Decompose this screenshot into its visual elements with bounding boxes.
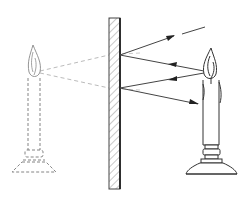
arrow-right-icon: [189, 99, 199, 104]
virtual-rays: [40, 53, 140, 90]
rays: [120, 27, 205, 104]
incident-ray-upper: [120, 55, 204, 71]
incident-ray-lower: [120, 73, 204, 88]
plane-mirror-diagram: [0, 0, 251, 197]
virtual-candle-image: [12, 45, 56, 172]
arrow-left-icon: [168, 76, 177, 81]
virtual-ray-lower: [40, 73, 109, 88]
reflected-ray-upper-continuation: [182, 27, 205, 34]
real-candle: [186, 48, 237, 174]
virtual-ray-upper: [40, 55, 109, 71]
reflected-ray-lower: [120, 88, 198, 104]
virtual-flame-icon: [28, 45, 40, 77]
arrow-right-icon: [166, 35, 175, 41]
arrow-left-icon: [168, 62, 177, 67]
plane-mirror: [109, 18, 120, 189]
flame-icon: [203, 48, 216, 79]
reflected-ray-upper: [120, 36, 174, 55]
